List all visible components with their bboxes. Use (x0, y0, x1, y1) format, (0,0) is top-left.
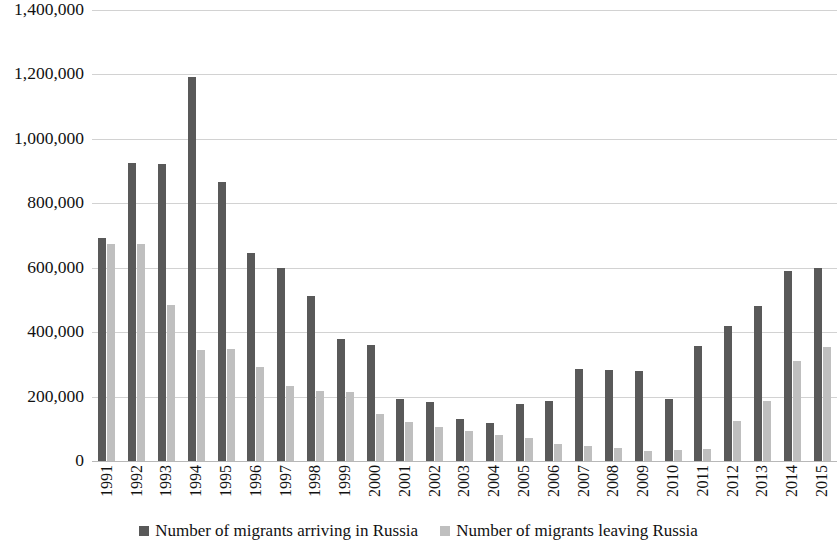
y-axis: 0200,000400,000600,000800,0001,000,0001,… (0, 0, 88, 471)
plot-area (92, 10, 837, 461)
bar-leaving (733, 421, 741, 461)
bar-leaving (346, 392, 354, 461)
bar-group (718, 10, 748, 461)
legend-label: Number of migrants arriving in Russia (155, 522, 418, 539)
x-axis-tick: 2009 (628, 463, 658, 513)
bar-leaving (525, 438, 533, 461)
chart-legend: Number of migrants arriving in RussiaNum… (0, 518, 837, 543)
x-axis-tick-label: 2000 (367, 465, 383, 497)
x-axis-tick-label: 1992 (129, 465, 145, 497)
x-axis-tick: 1996 (241, 463, 271, 513)
bar-arriving (188, 77, 196, 461)
bar-leaving (554, 444, 562, 461)
y-axis-tick-label: 1,400,000 (14, 1, 84, 19)
x-axis-tick-label: 1991 (99, 465, 115, 497)
x-axis-tick: 1998 (301, 463, 331, 513)
x-axis-tick: 2003 (450, 463, 480, 513)
x-axis-tick-label: 1993 (158, 465, 174, 497)
x-axis-tick: 2001 (390, 463, 420, 513)
axis-baseline (92, 461, 837, 462)
bar-group (450, 10, 480, 461)
bar-leaving (703, 449, 711, 461)
bar-arriving (337, 339, 345, 461)
x-axis-tick-label: 2014 (784, 465, 800, 497)
x-axis-tick-label: 2010 (665, 465, 681, 497)
x-axis-tick-label: 2015 (814, 465, 830, 497)
x-axis-tick: 2002 (420, 463, 450, 513)
legend-swatch-icon (440, 526, 450, 536)
bar-group (599, 10, 629, 461)
bar-group (479, 10, 509, 461)
x-axis: 1991199219931994199519961997199819992000… (92, 463, 837, 513)
bar-leaving (584, 446, 592, 461)
x-axis-tick: 2011 (688, 463, 718, 513)
bar-group (569, 10, 599, 461)
y-axis-tick-label: 800,000 (27, 195, 84, 213)
bar-group (748, 10, 778, 461)
bar-leaving (763, 401, 771, 461)
bar-leaving (644, 451, 652, 461)
bar-leaving (674, 450, 682, 461)
x-axis-tick-label: 2005 (516, 465, 532, 497)
bar-group (688, 10, 718, 461)
bar-group (807, 10, 837, 461)
bar-arriving (814, 268, 822, 461)
bar-arriving (694, 346, 702, 461)
x-axis-tick-label: 1995 (218, 465, 234, 497)
bar-arriving (635, 371, 643, 461)
bar-group (360, 10, 390, 461)
bar-arriving (396, 399, 404, 461)
legend-item[interactable]: Number of migrants leaving Russia (440, 522, 698, 539)
bar-leaving (823, 347, 831, 461)
x-axis-tick-label: 1996 (248, 465, 264, 497)
bar-leaving (495, 435, 503, 461)
bar-arriving (218, 182, 226, 461)
bar-group (420, 10, 450, 461)
bar-arriving (307, 296, 315, 461)
x-axis-tick-label: 2003 (456, 465, 472, 497)
bar-leaving (107, 244, 115, 461)
bar-arriving (575, 369, 583, 461)
x-axis-tick: 1997 (271, 463, 301, 513)
bar-group (330, 10, 360, 461)
bar-leaving (167, 305, 175, 461)
bar-group (271, 10, 301, 461)
x-axis-tick: 1994 (181, 463, 211, 513)
bar-group (122, 10, 152, 461)
bar-group (628, 10, 658, 461)
x-axis-tick-label: 2007 (576, 465, 592, 497)
x-axis-tick-label: 2002 (427, 465, 443, 497)
bar-arriving (665, 399, 673, 461)
x-axis-tick: 2012 (718, 463, 748, 513)
x-axis-tick-label: 2008 (605, 465, 621, 497)
x-axis-tick-label: 1997 (278, 465, 294, 497)
x-axis-tick: 1995 (211, 463, 241, 513)
bar-leaving (614, 448, 622, 461)
x-axis-tick: 2006 (539, 463, 569, 513)
bar-leaving (256, 367, 264, 461)
bar-leaving (316, 391, 324, 461)
bars-layer (92, 10, 837, 461)
x-axis-tick-label: 2004 (486, 465, 502, 497)
y-axis-tick-label: 1,000,000 (14, 130, 84, 148)
bar-group (539, 10, 569, 461)
bar-arriving (426, 402, 434, 461)
migration-bar-chart: 0200,000400,000600,000800,0001,000,0001,… (0, 0, 837, 543)
y-axis-tick-label: 600,000 (27, 259, 84, 277)
bar-group (211, 10, 241, 461)
bar-arriving (456, 419, 464, 461)
bar-arriving (158, 164, 166, 461)
x-axis-tick: 1999 (330, 463, 360, 513)
x-axis-tick: 2013 (748, 463, 778, 513)
bar-leaving (405, 422, 413, 461)
x-axis-tick: 1991 (92, 463, 122, 513)
bar-arriving (367, 345, 375, 461)
x-axis-tick-label: 2012 (725, 465, 741, 497)
bar-group (241, 10, 271, 461)
bar-group (658, 10, 688, 461)
legend-item[interactable]: Number of migrants arriving in Russia (139, 522, 418, 539)
x-axis-tick-label: 2011 (695, 465, 711, 496)
x-axis-tick: 2014 (777, 463, 807, 513)
bar-leaving (376, 414, 384, 461)
x-axis-tick: 2015 (807, 463, 837, 513)
